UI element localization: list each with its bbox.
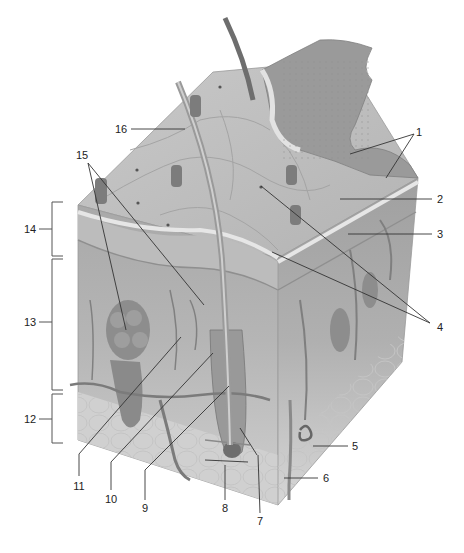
label-6: 6 [323, 472, 329, 484]
label-10: 10 [105, 493, 117, 505]
label-14: 14 [24, 223, 36, 235]
label-4: 4 [437, 321, 443, 333]
left-face [70, 205, 278, 505]
label-3: 3 [437, 228, 443, 240]
peeled-epidermis [262, 40, 418, 178]
label-15: 15 [76, 149, 88, 161]
label-8: 8 [222, 502, 228, 514]
label-13: 13 [24, 316, 36, 328]
label-2: 2 [437, 193, 443, 205]
label-16: 16 [115, 123, 127, 135]
layer-brackets [39, 202, 63, 443]
label-11: 11 [73, 480, 84, 492]
skin-diagram [0, 0, 464, 553]
label-9: 9 [142, 502, 148, 514]
label-1: 1 [416, 126, 422, 138]
label-5: 5 [352, 440, 358, 452]
label-7: 7 [257, 515, 263, 527]
label-12: 12 [24, 413, 36, 425]
